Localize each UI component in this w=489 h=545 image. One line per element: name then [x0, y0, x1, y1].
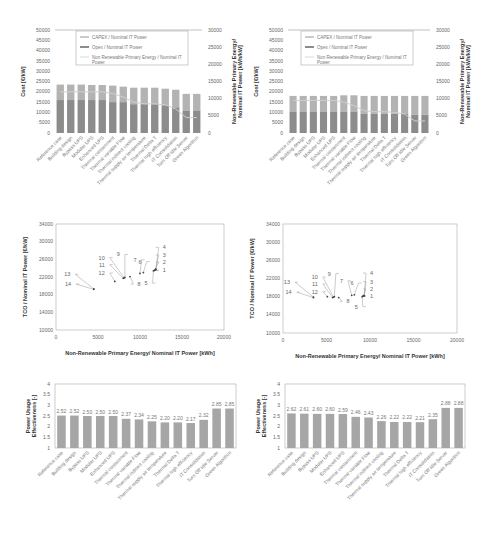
opex-bar	[99, 100, 106, 133]
data-point	[332, 297, 334, 299]
capex-bar	[350, 95, 357, 111]
leader-line	[323, 277, 334, 297]
y-tick-label: 30000	[36, 68, 50, 74]
pue-bar	[339, 414, 347, 448]
data-point	[361, 296, 363, 298]
value-label: 2.50	[108, 409, 118, 415]
leader-line	[323, 292, 328, 297]
value-label: 2.20	[173, 415, 183, 421]
y-tick-label: 18000	[266, 293, 280, 299]
y-tick-label: 45000	[36, 37, 50, 43]
y2-tick-label: 20000	[208, 61, 222, 67]
value-label: 2.88	[454, 400, 464, 406]
point-label: 3	[370, 279, 373, 285]
value-label: 2.21	[415, 415, 425, 421]
y-axis-label: Cost [€/kW]	[20, 66, 26, 96]
y-tick-label: 15000	[36, 99, 50, 105]
pue-bar	[287, 413, 295, 448]
opex-bar	[162, 105, 169, 133]
pue-bar	[186, 423, 195, 448]
leader-line	[153, 271, 156, 283]
y-tick-label: 5000	[272, 119, 283, 125]
y-tick-label: 30000	[39, 238, 53, 244]
value-label: 2.61	[299, 406, 309, 412]
capex-bar	[67, 85, 74, 100]
opex-bar	[371, 113, 378, 133]
figure-canvas: 0500010000150002000025000300003500040000…	[0, 0, 489, 545]
data-point	[122, 277, 124, 279]
capex-bar	[151, 88, 158, 104]
y-tick-label: 22000	[39, 274, 53, 280]
plot-area	[55, 384, 236, 448]
opex-bar	[320, 111, 327, 133]
opex-bar	[330, 111, 337, 133]
pue-bar	[300, 414, 308, 448]
pue-bar	[70, 416, 79, 448]
x-tick-label: 10000	[133, 334, 147, 340]
data-point	[153, 270, 155, 272]
legend: CAPEX / Nominal IT PowerOpex / Nominal I…	[301, 31, 413, 65]
x-tick-label: 0	[55, 334, 58, 340]
capex-bar	[401, 96, 408, 114]
point-label: 10	[99, 255, 105, 261]
capex-bar	[421, 96, 428, 115]
value-label: 2.60	[325, 406, 335, 412]
opex-bar	[130, 104, 137, 133]
point-label: 5	[355, 304, 358, 310]
legend-label: Opex / Nominal IT Power	[317, 45, 368, 50]
value-label: 2.85	[212, 401, 222, 407]
y-tick-label: 26000	[266, 257, 280, 263]
y-axis-label: Power UsageEffectiveness [-]	[255, 395, 267, 438]
data-point	[351, 294, 353, 296]
y-axis-label: Power UsageEffectiveness [-]	[25, 395, 37, 438]
pue-bar	[199, 420, 208, 448]
point-label: 8	[137, 281, 140, 287]
opex-bar	[310, 111, 317, 133]
capex-bar	[320, 96, 327, 111]
y2-tick-label: 0	[208, 130, 211, 136]
point-label: 12	[99, 270, 105, 276]
leader-line	[295, 282, 313, 297]
opex-bar	[193, 110, 200, 133]
pue-bar	[122, 419, 131, 448]
y-tick-label: 45000	[269, 37, 283, 43]
y-tick-label: 1	[47, 445, 50, 451]
capex-bar	[391, 96, 398, 114]
capex-bar	[120, 87, 127, 102]
legend-label: CAPEX / Nominal IT Power	[317, 35, 372, 40]
value-label: 2.50	[95, 409, 105, 415]
opex-bar	[340, 111, 347, 133]
point-label: 9	[117, 251, 120, 257]
capex-bar	[371, 96, 378, 114]
point-label: 7	[134, 257, 137, 263]
y2-tick-label: 30000	[436, 27, 450, 33]
y-tick-label: 0	[280, 130, 283, 136]
value-label: 2.43	[364, 410, 374, 416]
plot-area	[56, 224, 224, 330]
cost-chart-left: 0500010000150002000025000300003500040000…	[20, 27, 243, 186]
data-point	[155, 268, 157, 270]
value-label: 2.46	[351, 409, 361, 415]
point-label: 5	[144, 280, 147, 286]
y-tick-label: 2.5	[43, 413, 50, 419]
opex-bar	[391, 113, 398, 133]
y-tick-label: 3	[47, 402, 50, 408]
y-tick-label: 5000	[39, 119, 50, 125]
value-label: 2.20	[160, 415, 170, 421]
capex-bar	[57, 85, 64, 100]
opex-bar	[183, 110, 190, 133]
y-tick-label: 1	[277, 445, 280, 451]
data-point	[338, 297, 340, 299]
value-label: 2.17	[186, 416, 196, 422]
plot-area	[285, 384, 465, 448]
y-tick-label: 2	[277, 423, 280, 429]
tco-scatter-right: 1000014000180002200026000300003400005000…	[249, 221, 464, 359]
y-tick-label: 14000	[266, 311, 280, 317]
point-label: 2	[163, 259, 166, 265]
leader-line	[334, 274, 339, 297]
y-tick-label: 22000	[266, 275, 280, 281]
x-tick-label: 15000	[175, 334, 189, 340]
value-label: 2.37	[121, 411, 131, 417]
point-label: 1	[370, 293, 373, 299]
data-point	[93, 288, 95, 290]
